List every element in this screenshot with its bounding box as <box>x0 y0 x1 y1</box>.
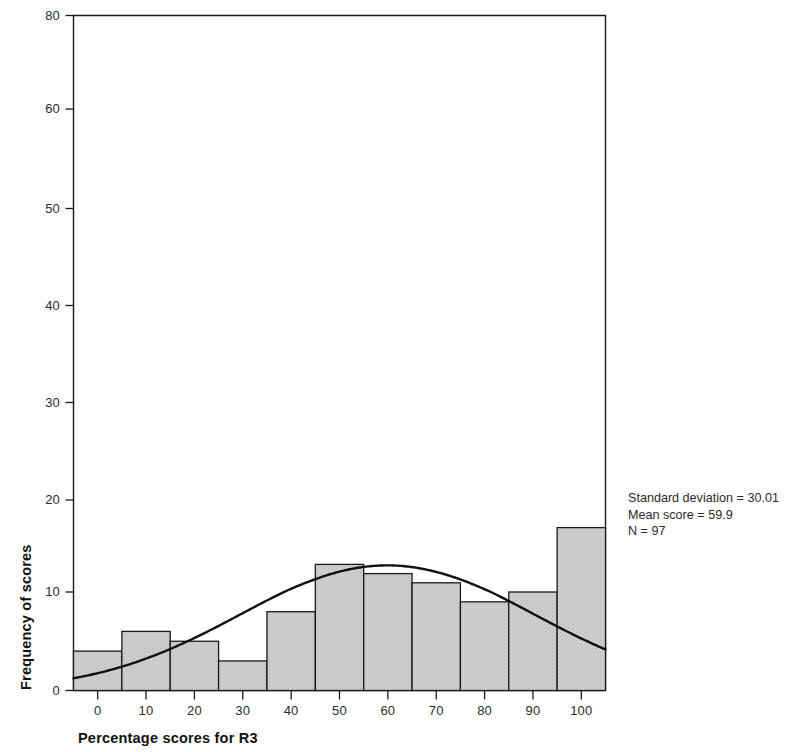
x-axis-tick-label: 70 <box>413 703 459 718</box>
x-axis-tick-label: 40 <box>268 703 314 718</box>
histogram-bar <box>267 612 315 691</box>
y-axis-title: Frequency of scores <box>18 544 34 690</box>
histogram-bar <box>170 641 218 690</box>
mean-score-text: Mean score = 59.9 <box>628 507 779 524</box>
x-axis-ticks <box>98 691 582 700</box>
y-axis-ticks <box>66 16 74 691</box>
y-axis-tick-label: 30 <box>18 395 60 410</box>
histogram-bar <box>412 583 460 691</box>
chart-canvas <box>0 0 801 752</box>
x-axis-tick-label: 30 <box>220 703 266 718</box>
histogram-chart: 010203040506080 0102030405060708090100 P… <box>0 0 801 752</box>
x-axis-tick-label: 50 <box>317 703 363 718</box>
x-axis-tick-label: 10 <box>123 703 169 718</box>
histogram-bar <box>460 602 508 691</box>
histogram-bar <box>364 574 412 691</box>
y-axis-tick-label: 20 <box>18 492 60 507</box>
x-axis-tick-label: 20 <box>171 703 217 718</box>
y-axis-tick-label: 60 <box>18 101 60 116</box>
histogram-bar <box>509 592 557 691</box>
y-axis-tick-label: 40 <box>18 298 60 313</box>
x-axis-tick-label: 80 <box>462 703 508 718</box>
statistics-annotation: Standard deviation = 30.01 Mean score = … <box>628 490 779 540</box>
x-axis-title: Percentage scores for R3 <box>78 730 258 746</box>
x-axis-tick-label: 100 <box>558 703 604 718</box>
histogram-bar <box>557 528 605 691</box>
histogram-bar <box>122 631 170 690</box>
standard-deviation-text: Standard deviation = 30.01 <box>628 490 779 507</box>
histogram-bar <box>219 661 267 691</box>
x-axis-tick-label: 0 <box>75 703 121 718</box>
y-axis-tick-label: 80 <box>18 8 60 23</box>
x-axis-tick-label: 90 <box>510 703 556 718</box>
histogram-bar <box>315 564 363 690</box>
histogram-bar <box>74 651 122 690</box>
sample-size-text: N = 97 <box>628 523 779 540</box>
y-axis-tick-label: 50 <box>18 201 60 216</box>
x-axis-tick-label: 60 <box>365 703 411 718</box>
